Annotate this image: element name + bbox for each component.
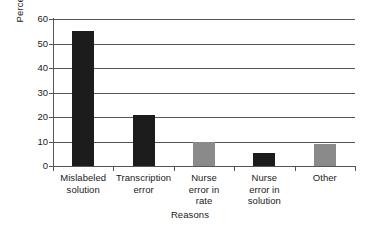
x-tick-mark <box>113 167 114 171</box>
bar <box>133 115 155 166</box>
x-category-label-line: Nurse <box>174 172 234 184</box>
x-category-label-line: rate <box>174 195 234 207</box>
y-tick-label: 0 <box>26 161 48 171</box>
x-category-label-line: Transcription <box>113 172 173 184</box>
x-tick-mark <box>174 167 175 171</box>
y-tick-mark <box>49 117 53 118</box>
y-tick-label: 10 <box>26 137 48 147</box>
y-axis-tick-labels: 0102030405060 <box>26 0 48 239</box>
x-category-label-line: error <box>113 184 173 196</box>
x-category-label-line: solution <box>234 195 294 207</box>
x-tick-mark <box>234 167 235 171</box>
x-category-label-line: Nurse <box>234 172 294 184</box>
x-category-label-line: solution <box>53 184 113 196</box>
bars-layer <box>53 19 355 166</box>
y-tick-label: 30 <box>26 88 48 98</box>
y-tick-label: 50 <box>26 39 48 49</box>
y-tick-mark <box>49 19 53 20</box>
x-tick-mark <box>295 167 296 171</box>
percent-frequency-bar-chart: Percent frequency 0102030405060 Mislabel… <box>0 0 380 239</box>
x-category-label: Nurseerror inrate <box>174 172 234 207</box>
plot-area <box>53 19 355 166</box>
y-tick-label: 40 <box>26 63 48 73</box>
x-category-label-line: error in <box>234 184 294 196</box>
x-category-label: Mislabeledsolution <box>53 172 113 195</box>
x-tick-mark <box>53 167 54 171</box>
bar <box>253 153 275 166</box>
y-tick-label: 20 <box>26 112 48 122</box>
x-axis-title: Reasons <box>0 209 380 221</box>
y-tick-mark <box>49 44 53 45</box>
y-tick-mark <box>49 93 53 94</box>
y-axis-title: Percent frequency <box>13 0 27 48</box>
bar <box>72 31 94 166</box>
x-category-label: Nurseerror insolution <box>234 172 294 207</box>
x-axis-line <box>53 166 356 167</box>
bar <box>314 144 336 166</box>
y-tick-mark <box>49 142 53 143</box>
x-category-label: Transcriptionerror <box>113 172 173 195</box>
y-tick-mark <box>49 68 53 69</box>
bar <box>193 142 215 167</box>
x-category-label: Other <box>295 172 355 184</box>
x-category-label-line: Other <box>295 172 355 184</box>
x-category-label-line: Mislabeled <box>53 172 113 184</box>
y-tick-label: 60 <box>26 14 48 24</box>
x-tick-mark <box>355 167 356 171</box>
x-category-label-line: error in <box>174 184 234 196</box>
